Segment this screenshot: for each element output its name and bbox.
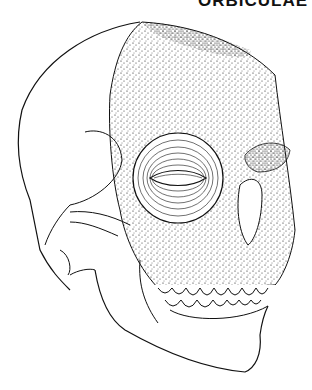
condyle — [60, 250, 95, 275]
upper-teeth — [155, 285, 275, 300]
skull-illustration — [0, 0, 312, 390]
orbicularis-oculi-muscle — [133, 133, 223, 223]
lower-teeth — [165, 300, 268, 319]
